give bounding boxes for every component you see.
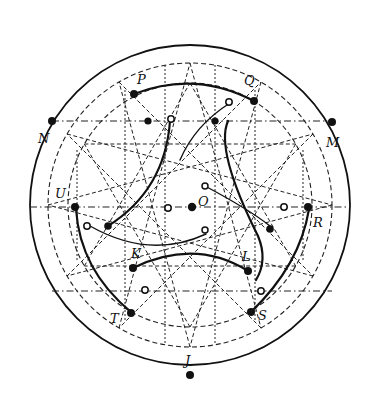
point-l — [244, 267, 252, 275]
point-u — [71, 203, 79, 211]
arc-inner-upper — [180, 103, 230, 160]
label-s: S — [258, 308, 267, 323]
point-q — [250, 97, 258, 105]
label-r: R — [312, 215, 323, 230]
label-o: O — [198, 194, 209, 209]
point-left-inner — [104, 222, 112, 230]
star-line — [67, 134, 261, 328]
point-o — [188, 203, 196, 211]
label-n: N — [37, 131, 50, 146]
label-t: T — [110, 311, 120, 326]
point-left-open — [84, 223, 90, 229]
arc-left-upper — [108, 121, 170, 226]
label-k: K — [130, 246, 142, 261]
point-right-inner — [266, 225, 274, 233]
label-m: M — [325, 135, 340, 150]
label-p: P — [136, 72, 146, 87]
point-s — [247, 308, 255, 316]
point-t — [127, 309, 135, 317]
point-upper-left-open — [168, 116, 174, 122]
star-line — [119, 82, 190, 347]
point-r — [304, 203, 312, 211]
star-line — [190, 82, 261, 347]
star-line — [67, 82, 261, 276]
star-line — [48, 205, 313, 276]
point-center-left — [165, 205, 171, 211]
point-q-open — [226, 99, 232, 105]
point-p — [130, 90, 138, 98]
point-lower-left-open — [142, 287, 148, 293]
diagram-canvas: P Q N M U O R K L T S J — [0, 0, 380, 403]
point-n — [48, 117, 56, 125]
arc-k-l — [133, 254, 248, 271]
point-upper-left — [144, 117, 151, 124]
star-line — [119, 134, 313, 328]
star-line — [119, 63, 190, 328]
star-line — [119, 82, 313, 276]
point-m — [328, 118, 336, 126]
star-line — [67, 205, 332, 276]
star-line — [48, 134, 313, 205]
point-upper-right — [211, 117, 218, 124]
curves — [76, 84, 309, 312]
point-center-lower — [202, 227, 208, 233]
point-lower-right-open — [258, 288, 264, 294]
point-j — [186, 371, 194, 379]
point-right-open — [281, 204, 287, 210]
label-u: U — [55, 186, 67, 201]
label-l: L — [241, 249, 251, 264]
label-q: Q — [244, 73, 255, 88]
arc-p-q — [134, 84, 254, 101]
point-center-upper — [202, 183, 208, 189]
point-k — [129, 264, 137, 272]
